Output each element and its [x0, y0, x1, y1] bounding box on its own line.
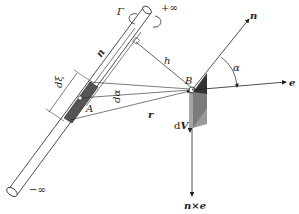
- label-gamma: Γ: [116, 6, 125, 17]
- vector-n: [192, 19, 249, 90]
- label-B: B: [184, 75, 192, 86]
- label-n-vector: n: [250, 10, 257, 21]
- label-minus-infinity: −∞: [29, 184, 46, 195]
- plane-mid: [193, 92, 207, 128]
- label-h: h: [164, 55, 170, 66]
- label-plus-infinity: +∞: [161, 2, 178, 13]
- label-r: r: [148, 109, 154, 120]
- label-dalpha: dα: [111, 90, 122, 103]
- diagram-canvas: Γ +∞ −∞ n h B n α e dξ dα A r dV n×e: [0, 0, 299, 214]
- label-e: e: [289, 77, 295, 88]
- label-dV: dV: [174, 120, 189, 131]
- label-A: A: [85, 103, 93, 114]
- label-n-cross-e: n×e: [184, 200, 206, 211]
- label-alpha: α: [233, 62, 240, 73]
- label-dxi: dξ: [53, 76, 64, 88]
- point-A: [78, 96, 82, 100]
- label-n-tube: n: [94, 47, 107, 59]
